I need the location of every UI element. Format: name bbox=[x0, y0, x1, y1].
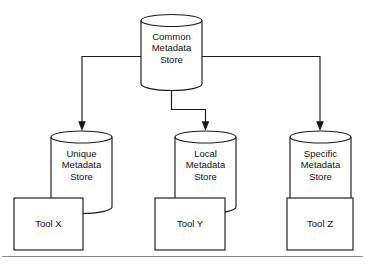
connector-common-to-specific bbox=[202, 57, 324, 132]
node-tool-x-shape bbox=[14, 198, 83, 250]
connector-common-to-unique bbox=[78, 57, 141, 132]
connector-common-to-local bbox=[172, 90, 210, 131]
node-common-metadata-store-shape bbox=[141, 15, 202, 91]
node-tool-y-shape bbox=[155, 198, 225, 250]
diagram-vector-layer bbox=[0, 0, 365, 271]
node-tool-z-shape bbox=[287, 198, 353, 250]
diagram-canvas: Common Metadata Store Unique Metadata St… bbox=[0, 0, 365, 271]
